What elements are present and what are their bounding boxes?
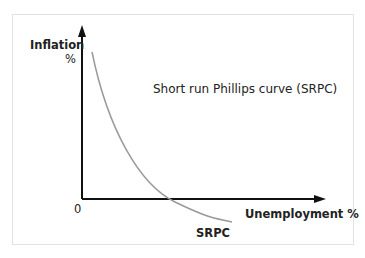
x-axis-label: Unemployment % <box>245 207 359 221</box>
srpc-curve <box>92 52 232 222</box>
y-axis-label: Inflation <box>30 38 84 52</box>
x-axis-arrow-icon <box>314 195 326 203</box>
diagram-title: Short run Phillips curve (SRPC) <box>153 82 337 96</box>
y-axis-arrow-icon <box>78 25 86 37</box>
y-axis-unit: % <box>65 52 76 66</box>
curve-label: SRPC <box>196 226 230 240</box>
origin-label: 0 <box>74 202 81 216</box>
